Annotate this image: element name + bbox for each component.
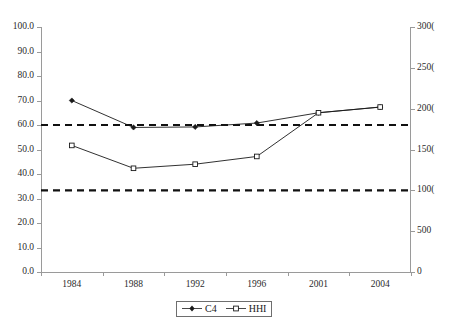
series-canvas — [0, 0, 452, 328]
legend-marker-open-square-icon — [226, 304, 246, 313]
series-line-hhi — [72, 107, 380, 168]
legend-label-c4: C4 — [205, 303, 217, 314]
legend-label-hhi: HHI — [249, 303, 267, 314]
chart-legend: C4 HHI — [176, 301, 272, 317]
legend-entry-c4: C4 — [182, 303, 217, 314]
data-point-marker-filled-diamond — [69, 98, 74, 103]
data-point-marker-open-square — [193, 162, 198, 167]
line-chart: 0.010.020.030.040.050.060.070.080.090.01… — [0, 0, 452, 328]
data-point-marker-open-square — [316, 110, 321, 115]
legend-marker-filled-diamond-icon — [182, 304, 202, 313]
data-point-marker-open-square — [378, 105, 383, 110]
legend-entry-hhi: HHI — [226, 303, 267, 314]
data-point-marker-open-square — [255, 154, 260, 159]
data-point-marker-filled-diamond — [193, 124, 198, 129]
data-point-marker-open-square — [131, 166, 136, 171]
data-point-marker-open-square — [70, 143, 75, 148]
series-line-c4 — [72, 101, 380, 128]
